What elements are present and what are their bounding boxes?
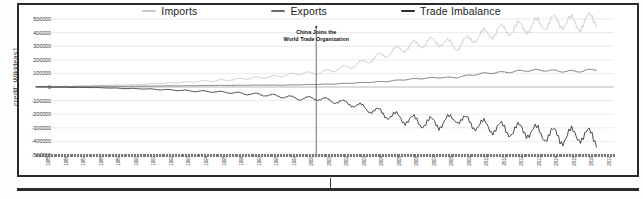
x-tick-mark (484, 154, 485, 157)
x-tick-mark (420, 154, 421, 157)
x-tick-mark (328, 154, 329, 157)
annotation-line (315, 26, 317, 155)
x-tick-mark (369, 154, 370, 157)
x-tick-mark (89, 154, 90, 157)
x-tick-mark (39, 154, 40, 157)
x-tick-label: 1986 (64, 156, 69, 166)
x-tick-mark (357, 154, 358, 157)
x-tick-mark (291, 154, 292, 157)
x-tick-mark (290, 154, 291, 157)
x-tick-mark (538, 154, 539, 157)
x-tick-mark (162, 154, 163, 157)
x-tick-mark (436, 154, 437, 157)
x-tick-mark (153, 154, 154, 157)
x-tick-mark (96, 154, 97, 157)
x-tick-mark (582, 154, 583, 157)
x-tick-mark (115, 154, 116, 157)
x-tick-mark (284, 154, 285, 157)
x-tick-mark (93, 154, 94, 157)
x-tick-mark (331, 154, 332, 157)
x-tick-mark (467, 154, 468, 157)
x-tick-mark (375, 154, 376, 157)
x-tick-mark (439, 154, 440, 157)
x-tick-mark (341, 154, 342, 157)
x-tick-mark (519, 154, 520, 157)
x-tick-mark (253, 154, 254, 157)
x-tick-mark (534, 154, 535, 157)
x-tick-mark (437, 154, 438, 157)
x-tick-mark (345, 154, 346, 157)
x-tick-mark (100, 154, 101, 157)
x-tick-mark (516, 154, 517, 157)
x-tick-mark (166, 154, 167, 157)
x-tick-label: 1985 (46, 156, 51, 166)
x-tick-mark (46, 154, 47, 157)
x-tick-mark (364, 154, 365, 157)
x-tick-mark (94, 154, 95, 157)
x-tick-mark (318, 154, 319, 157)
x-tick-mark (309, 154, 310, 157)
x-tick-mark (505, 154, 506, 157)
x-tick-label: 1987 (81, 156, 86, 166)
x-tick-mark (248, 154, 249, 157)
x-tick-mark (580, 154, 581, 157)
x-tick-mark (186, 154, 187, 157)
x-tick-mark (461, 154, 462, 157)
x-tick-mark (151, 154, 152, 157)
x-tick-mark (579, 154, 580, 157)
x-tick-mark (138, 154, 139, 157)
x-tick-mark (602, 154, 603, 157)
x-tick-mark (214, 154, 215, 157)
x-tick-label: 2014 (554, 156, 559, 166)
x-tick-mark (40, 154, 41, 157)
x-tick-mark (380, 154, 381, 157)
x-tick-mark (347, 154, 348, 157)
x-tick-mark (372, 154, 373, 157)
x-tick-mark (472, 154, 473, 157)
x-tick-mark (601, 154, 602, 157)
x-tick-label: 2017 (607, 156, 612, 166)
x-tick-mark (451, 154, 452, 157)
x-tick-mark (391, 154, 392, 157)
x-tick-mark (56, 154, 57, 157)
x-tick-mark (378, 154, 379, 157)
x-tick-mark (445, 154, 446, 157)
x-tick-mark (160, 154, 161, 157)
x-tick-mark (452, 154, 453, 157)
x-tick-label: 1991 (151, 156, 156, 166)
x-tick-mark (75, 154, 76, 157)
x-tick-mark (561, 154, 562, 157)
x-tick-mark (588, 154, 589, 157)
x-tick-mark (132, 154, 133, 157)
x-tick-mark (296, 154, 297, 157)
x-tick-mark (560, 154, 561, 157)
x-tick-mark (267, 154, 268, 157)
x-tick-mark (316, 154, 317, 157)
x-tick-mark (54, 154, 55, 157)
x-tick-mark (221, 154, 222, 157)
x-tick-mark (394, 154, 395, 157)
x-tick-mark (312, 154, 313, 157)
x-tick-mark (183, 154, 184, 157)
x-tick-label: 1994 (204, 156, 209, 166)
x-tick-mark (415, 154, 416, 157)
x-tick-mark (108, 154, 109, 157)
x-tick-mark (201, 154, 202, 157)
x-tick-mark (223, 154, 224, 157)
x-tick-mark (289, 154, 290, 157)
x-tick-mark (255, 154, 256, 157)
x-tick-mark (353, 154, 354, 157)
x-tick-mark (274, 154, 275, 157)
x-tick-mark (589, 154, 590, 157)
x-tick-mark (52, 154, 53, 157)
x-tick-mark (411, 154, 412, 157)
x-tick-mark (70, 154, 71, 157)
x-tick-mark (310, 154, 311, 157)
x-tick-mark (559, 154, 560, 157)
x-tick-mark (237, 154, 238, 157)
x-tick-mark (182, 154, 183, 157)
x-tick-label: 2001 (327, 156, 332, 166)
x-tick-mark (506, 154, 507, 157)
x-tick-mark (340, 154, 341, 157)
x-tick-mark (36, 154, 37, 157)
